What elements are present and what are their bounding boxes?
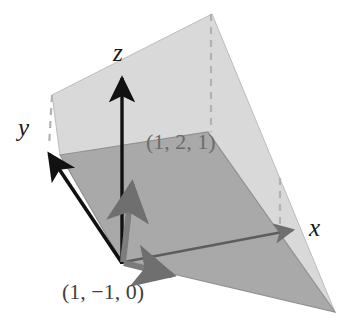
point-label-1-minus1-0: (1, −1, 0) <box>62 281 144 303</box>
dash-left-y-guide <box>49 95 52 147</box>
figure-container: z y x (1, 2, 1) (1, −1, 0) <box>0 0 352 328</box>
diagram-canvas <box>0 0 352 328</box>
point-label-1-2-1: (1, 2, 1) <box>146 131 216 153</box>
x-axis-label: x <box>309 215 320 240</box>
z-axis-label: z <box>113 40 123 65</box>
plane-group <box>52 14 335 312</box>
y-axis-label: y <box>18 115 29 140</box>
